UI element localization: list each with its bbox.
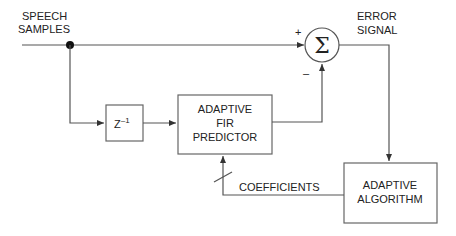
input-label-line2: SAMPLES xyxy=(18,23,70,35)
error-signal-line xyxy=(339,45,389,161)
input-label-line1: SPEECH xyxy=(22,10,67,22)
predictor-label-line1: ADAPTIVE xyxy=(198,103,252,115)
branch-to-delay-line xyxy=(70,45,104,123)
algorithm-label-line1: ADAPTIVE xyxy=(363,179,417,191)
plus-sign: + xyxy=(295,26,301,38)
predictor-label-line2: FIR xyxy=(216,117,234,129)
predictor-label-line3: PREDICTOR xyxy=(193,131,258,143)
sigma-symbol: Σ xyxy=(314,33,330,58)
algorithm-label-line2: ALGORITHM xyxy=(357,193,422,205)
block-diagram: SPEECH SAMPLES Z–1 ADAPTIVE FIR PREDICTO… xyxy=(0,0,456,236)
predictor-to-summer-line xyxy=(272,64,322,122)
output-label-line2: SIGNAL xyxy=(357,24,397,36)
minus-sign: – xyxy=(303,67,310,79)
coefficients-label: COEFFICIENTS xyxy=(239,181,320,193)
output-label-line1: ERROR xyxy=(357,10,397,22)
